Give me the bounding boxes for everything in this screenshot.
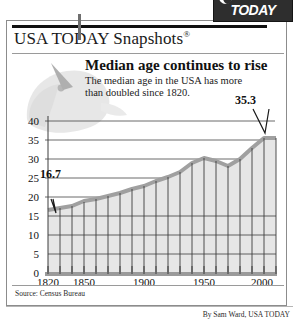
y-tick-40: 40 xyxy=(21,115,39,127)
y-tick-30: 30 xyxy=(21,153,39,165)
y-tick-5: 5 xyxy=(21,248,39,260)
bars-group xyxy=(48,138,276,273)
source-note: Source: Census Bureau xyxy=(15,289,85,298)
y-tick-35: 35 xyxy=(21,134,39,146)
chart-subtitle: The median age in the USA has more than … xyxy=(85,75,255,100)
data-label-16-7: 16.7 xyxy=(40,167,61,182)
x-tick-1950: 1950 xyxy=(187,276,221,288)
footer-divider xyxy=(12,285,284,286)
data-label-35-3: 35.3 xyxy=(235,93,256,108)
x-tick-1850: 1850 xyxy=(67,276,101,288)
y-tick-25: 25 xyxy=(21,172,39,184)
x-tick-1900: 1900 xyxy=(127,276,161,288)
x-tick-1820: 1820 xyxy=(31,276,65,288)
snapshot-card: USA TODAY Snapshots® Median age continue… xyxy=(6,20,287,306)
logo-accent-bar xyxy=(78,14,81,40)
chart-headline: Median age continues to rise xyxy=(85,57,285,74)
credit-divider xyxy=(6,306,293,307)
credit-line: By Sam Ward, USA TODAY xyxy=(150,310,290,319)
x-tick-2000: 2000 xyxy=(245,276,279,288)
y-tick-15: 15 xyxy=(21,210,39,222)
y-tick-20: 20 xyxy=(21,191,39,203)
y-tick-10: 10 xyxy=(21,229,39,241)
usa-today-logo: USA TODAY xyxy=(213,0,293,22)
logo-line-today: TODAY xyxy=(230,3,275,17)
